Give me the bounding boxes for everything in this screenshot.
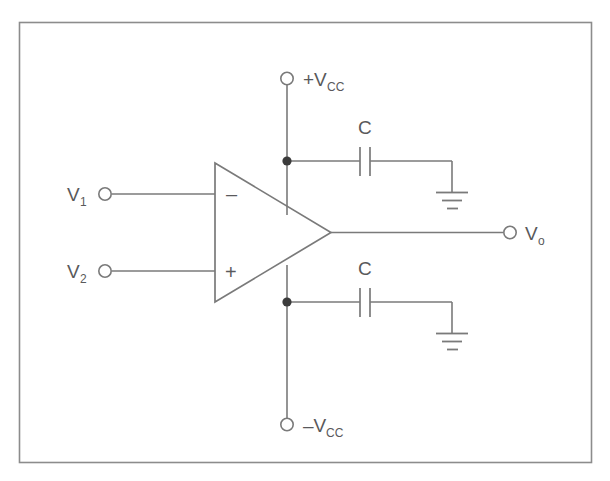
label-output-vo-subscript: o	[538, 234, 545, 248]
label-noninverting-input-sign: +	[225, 261, 237, 283]
label-inverting-input-sign: –	[226, 183, 238, 205]
label-vcc-positive-subscript: CC	[327, 80, 345, 94]
label-input-v2: V	[67, 261, 80, 282]
label-input-v2-subscript: 2	[80, 272, 87, 286]
terminal-vcc-negative-circle[interactable]	[281, 418, 293, 430]
label-vcc-positive: +V	[303, 69, 327, 90]
label-input-v1-subscript: 1	[80, 195, 87, 209]
terminal-v2-circle[interactable]	[99, 265, 111, 277]
label-vcc-negative-subscript: CC	[326, 426, 344, 440]
label-capacitor-bottom: C	[358, 258, 372, 279]
terminal-vo-circle[interactable]	[504, 226, 516, 238]
terminal-vcc-positive-circle[interactable]	[281, 72, 293, 84]
circuit-schematic-canvas: +V CC –V CC V 1 V 2 V o C C – +	[0, 0, 610, 481]
junction-dot-negative-rail	[282, 297, 291, 306]
label-capacitor-top: C	[358, 117, 372, 138]
circuit-diagram-figure: +V CC –V CC V 1 V 2 V o C C – +	[0, 0, 610, 481]
junction-dot-positive-rail	[282, 156, 291, 165]
label-vcc-negative: –V	[303, 415, 327, 436]
label-output-vo: V	[525, 223, 538, 244]
terminal-v1-circle[interactable]	[99, 188, 111, 200]
label-input-v1: V	[67, 184, 80, 205]
